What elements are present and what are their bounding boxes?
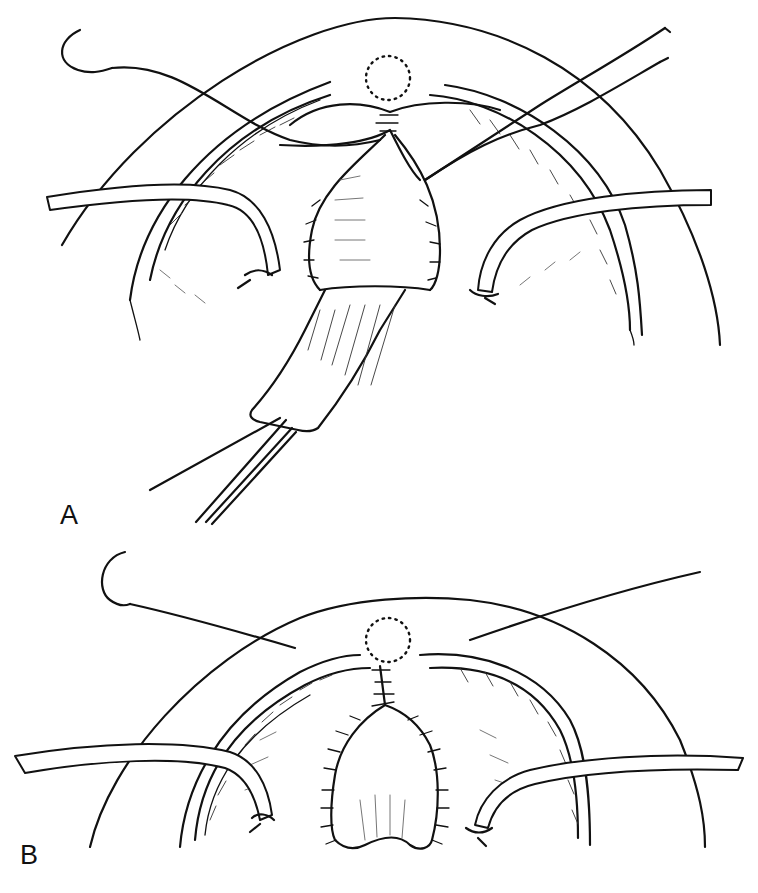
needle-a — [62, 30, 112, 72]
retractor-left-b — [15, 744, 272, 820]
outer-arc-b — [90, 598, 705, 847]
surgical-figure: A B — [0, 0, 758, 893]
panel-label-b: B — [20, 840, 38, 871]
dotted-circle-marker — [366, 56, 410, 100]
retractor-left — [47, 185, 280, 275]
retractor-right — [478, 190, 711, 292]
outer-arc — [62, 18, 720, 345]
dotted-circle-marker-b — [366, 618, 410, 662]
panel-a-illustration — [0, 0, 758, 540]
panel-b-illustration — [0, 540, 758, 893]
needle-b — [102, 552, 130, 605]
suture-line — [331, 705, 438, 849]
panel-label-a: A — [60, 500, 78, 531]
